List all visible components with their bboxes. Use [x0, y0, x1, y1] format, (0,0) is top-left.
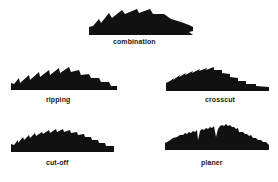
saw-tooth-profile-icon: [89, 9, 194, 36]
saw-tooth-profile-icon: [165, 124, 269, 151]
blade-combination-shape: [89, 9, 194, 36]
blade-cut-off-shape: [11, 129, 114, 153]
blade-crosscut-shape: [166, 67, 269, 92]
blade-label-planer: planer: [201, 159, 223, 166]
blade-label-combination: combination: [113, 38, 156, 45]
saw-tooth-profile-icon: [11, 129, 114, 153]
blade-label-crosscut: crosscut: [205, 96, 235, 103]
blade-label-cut-off: cut-off: [46, 159, 68, 166]
blade-label-ripping: ripping: [46, 96, 70, 103]
saw-tooth-profile-icon: [166, 67, 269, 92]
blade-ripping-shape: [11, 67, 117, 91]
saw-tooth-profile-icon: [11, 67, 117, 91]
blade-planer-shape: [165, 124, 269, 151]
